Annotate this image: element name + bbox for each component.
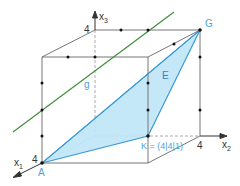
x1-axis-label: x1 bbox=[14, 157, 23, 170]
coordinate-diagram: x3 4 x2 4 x1 4 A G K = (4|4|1) E g bbox=[0, 0, 240, 186]
x2-tick-4: 4 bbox=[197, 140, 203, 151]
plane-E-label: E bbox=[162, 70, 169, 81]
point-K-label: K = (4|4|1) bbox=[141, 141, 183, 151]
point-A-label: A bbox=[38, 167, 45, 178]
point-G-label: G bbox=[205, 18, 213, 29]
x3-tick-4: 4 bbox=[84, 24, 90, 35]
line-g-label: g bbox=[84, 79, 90, 90]
x3-axis-label: x3 bbox=[99, 11, 108, 24]
x1-tick-4: 4 bbox=[32, 154, 38, 165]
x2-axis-label: x2 bbox=[222, 139, 231, 152]
